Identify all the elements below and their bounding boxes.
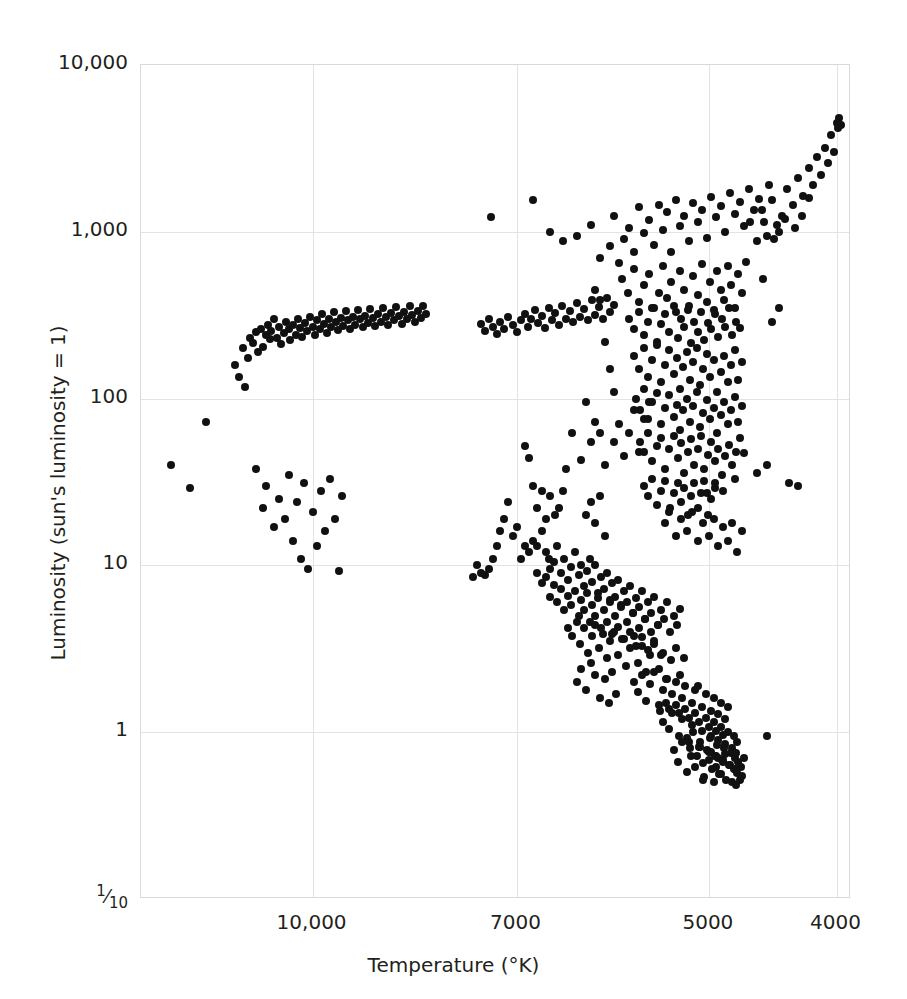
scatter-point xyxy=(710,356,718,364)
scatter-point xyxy=(670,302,678,310)
scatter-point xyxy=(667,656,675,664)
scatter-point xyxy=(321,527,329,535)
scatter-point xyxy=(406,302,414,310)
scatter-point xyxy=(724,537,732,545)
scatter-point xyxy=(704,451,712,459)
scatter-point xyxy=(661,361,669,369)
scatter-point xyxy=(285,471,293,479)
scatter-point xyxy=(584,649,592,657)
scatter-point xyxy=(529,196,537,204)
scatter-point xyxy=(697,308,705,316)
scatter-point xyxy=(721,228,729,236)
scatter-point xyxy=(335,567,343,575)
scatter-point xyxy=(538,527,546,535)
scatter-point xyxy=(635,624,643,632)
scatter-point xyxy=(742,258,750,266)
scatter-point xyxy=(700,477,708,485)
scatter-point xyxy=(798,212,806,220)
scatter-point xyxy=(620,235,628,243)
scatter-point xyxy=(603,654,611,662)
scatter-point xyxy=(647,609,655,617)
scatter-point xyxy=(674,334,682,342)
scatter-point xyxy=(745,185,753,193)
scatter-point xyxy=(573,232,581,240)
scatter-point xyxy=(640,385,648,393)
scatter-point xyxy=(710,404,718,412)
scatter-point xyxy=(659,226,667,234)
scatter-point xyxy=(698,206,706,214)
scatter-point xyxy=(580,606,588,614)
scatter-point xyxy=(657,487,665,495)
scatter-point xyxy=(630,325,638,333)
scatter-point xyxy=(714,542,722,550)
scatter-point xyxy=(599,630,607,638)
scatter-point xyxy=(555,321,563,329)
scatter-point xyxy=(688,699,696,707)
scatter-point xyxy=(326,475,334,483)
y-tick-label: 1⁄10 xyxy=(0,882,128,909)
plot-area xyxy=(140,64,850,898)
scatter-point xyxy=(720,296,728,304)
scatter-point xyxy=(648,457,656,465)
gridline-vertical xyxy=(517,65,518,897)
scatter-point xyxy=(679,363,687,371)
scatter-point xyxy=(687,752,695,760)
scatter-point xyxy=(625,315,633,323)
scatter-point xyxy=(379,304,387,312)
scatter-point xyxy=(663,294,671,302)
scatter-point xyxy=(654,621,662,629)
scatter-point xyxy=(678,715,686,723)
scatter-point xyxy=(674,454,682,462)
scatter-point xyxy=(277,340,285,348)
scatter-point xyxy=(717,770,725,778)
scatter-point xyxy=(789,201,797,209)
scatter-point xyxy=(677,439,685,447)
scatter-point xyxy=(661,477,669,485)
scatter-point xyxy=(259,343,267,351)
scatter-point xyxy=(718,471,726,479)
scatter-point xyxy=(541,324,549,332)
scatter-point xyxy=(765,181,773,189)
scatter-point xyxy=(564,624,572,632)
scatter-point xyxy=(707,325,715,333)
scatter-point xyxy=(702,690,710,698)
scatter-point xyxy=(646,680,654,688)
scatter-point xyxy=(733,738,741,746)
scatter-point xyxy=(562,465,570,473)
scatter-point xyxy=(684,448,692,456)
scatter-point xyxy=(685,237,693,245)
scatter-point xyxy=(596,296,604,304)
scatter-point xyxy=(703,350,711,358)
scatter-point xyxy=(630,678,638,686)
scatter-point xyxy=(713,267,721,275)
scatter-point xyxy=(665,328,673,336)
scatter-point xyxy=(689,272,697,280)
scatter-point xyxy=(653,389,661,397)
scatter-point xyxy=(596,492,604,500)
scatter-point xyxy=(252,465,260,473)
scatter-point xyxy=(338,492,346,500)
scatter-point xyxy=(500,515,508,523)
scatter-point xyxy=(676,222,684,230)
scatter-point xyxy=(663,208,671,216)
scatter-point xyxy=(571,587,579,595)
scatter-point xyxy=(529,482,537,490)
scatter-point xyxy=(696,743,704,751)
scatter-point xyxy=(720,352,728,360)
scatter-point xyxy=(698,260,706,268)
scatter-point xyxy=(684,306,692,314)
scatter-point xyxy=(703,298,711,306)
scatter-point xyxy=(679,406,687,414)
scatter-point xyxy=(670,432,678,440)
scatter-point xyxy=(546,228,554,236)
scatter-point xyxy=(650,241,658,249)
scatter-point xyxy=(611,612,619,620)
scatter-point xyxy=(698,727,706,735)
scatter-point xyxy=(736,324,744,332)
scatter-point xyxy=(817,171,825,179)
scatter-point xyxy=(622,662,630,670)
scatter-point xyxy=(573,678,581,686)
scatter-point xyxy=(239,344,247,352)
scatter-point xyxy=(705,756,713,764)
scatter-point xyxy=(687,492,695,500)
